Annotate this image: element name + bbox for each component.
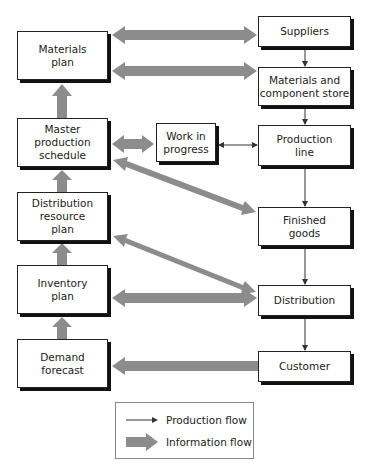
legend: Production flow Information flow [115, 402, 254, 459]
box-inventory-plan: Inventory plan [17, 265, 108, 314]
info-arrow-inventory-distribution [112, 289, 257, 307]
info-arrow-customer-to-demand [112, 357, 258, 375]
box-label: Distribution resource plan [32, 197, 93, 236]
box-materials-component-store: Materials and component store [258, 67, 351, 106]
box-finished-goods: Finished goods [258, 207, 351, 246]
box-label: Materials and component store [260, 74, 349, 100]
box-label: Inventory plan [37, 277, 87, 303]
box-suppliers: Suppliers [258, 16, 351, 47]
thin-arrow-icon [124, 412, 160, 428]
info-arrow-materials-plan-store [112, 62, 257, 80]
legend-production-flow-label: Production flow [166, 414, 247, 426]
info-arrow-mps-finished-goods [113, 157, 256, 215]
box-label: Work in progress [163, 130, 208, 156]
info-arrow-drp-to-mps [52, 170, 72, 192]
info-arrow-mps-to-materials-plan [52, 84, 72, 118]
box-label: Materials plan [38, 43, 86, 69]
box-production-line: Production line [258, 125, 351, 166]
box-label: Distribution [274, 294, 335, 307]
box-label: Customer [279, 360, 330, 373]
box-label: Production line [277, 133, 333, 159]
box-master-production-schedule: Master production schedule [17, 118, 108, 167]
box-customer: Customer [258, 351, 351, 382]
box-label: Finished goods [283, 214, 326, 240]
info-arrow-mps-wip [112, 135, 154, 153]
box-label: Demand forecast [40, 351, 85, 377]
box-materials-plan: Materials plan [17, 31, 108, 80]
info-arrow-drp-distribution [113, 234, 256, 294]
box-work-in-progress: Work in progress [156, 123, 216, 162]
box-distribution: Distribution [258, 285, 351, 316]
info-arrow-inventory-to-drp [52, 243, 72, 265]
info-arrow-materials-plan-suppliers [112, 26, 257, 44]
box-label: Master production schedule [34, 123, 90, 162]
legend-information-flow-label: Information flow [166, 436, 252, 448]
legend-production-flow: Production flow [116, 412, 253, 430]
thick-arrow-icon [124, 433, 160, 451]
box-demand-forecast: Demand forecast [17, 339, 108, 388]
box-distribution-resource-plan: Distribution resource plan [17, 192, 108, 241]
box-label: Suppliers [280, 25, 329, 38]
info-arrow-demand-to-inventory [52, 317, 72, 339]
legend-information-flow: Information flow [116, 434, 253, 452]
